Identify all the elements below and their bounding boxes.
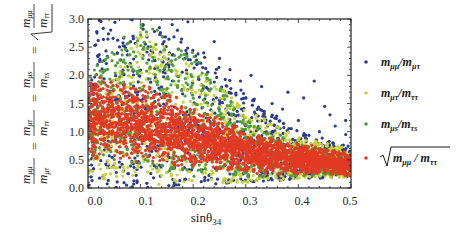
svg-text:mττ: mττ: [35, 120, 51, 136]
svg-text:mμμ / mττ: mμμ / mττ: [393, 151, 437, 167]
legend-marker-red: [364, 156, 368, 160]
y-tick-label: 1.5: [69, 97, 84, 111]
x-tick-label: 0.1: [139, 194, 154, 208]
y-tick-label: 0.5: [69, 153, 84, 167]
legend-item: mμμ / mττ: [364, 147, 450, 167]
svg-text:mττ: mττ: [35, 12, 51, 28]
y-title-term: mμτ mττ: [18, 110, 51, 136]
y-title-term: mμs mτs: [18, 62, 51, 88]
y-tick-label: 0.0: [69, 181, 84, 195]
x-tick-label: 0.5: [343, 194, 358, 208]
x-tick-label: 0.2: [191, 194, 206, 208]
svg-text:mμμ: mμμ: [18, 11, 34, 28]
svg-text:=: =: [27, 95, 42, 102]
legend-marker-blue: [364, 60, 368, 64]
y-tick-labels: 0.0 0.5 1.0 1.5 2.0 2.5 3.0: [69, 12, 84, 195]
svg-text:=: =: [27, 47, 42, 54]
svg-text:mμs: mμs: [18, 71, 34, 88]
x-tick-label: 0.3: [243, 194, 258, 208]
y-axis-title: mμμ mμτ = mμτ mττ = mμs mτs = mμμ mττ: [18, 4, 52, 184]
svg-text:mμμ: mμμ: [18, 167, 34, 184]
scatter-points: [87, 18, 353, 189]
y-title-term-sqrt: mμμ mττ: [18, 4, 52, 40]
svg-text:mμμ/mμτ: mμμ/mμτ: [381, 55, 420, 71]
y-tick-label: 2.5: [69, 40, 84, 54]
legend-marker-yellow: [364, 91, 368, 95]
x-tick-label: 0.0: [88, 194, 103, 208]
legend: mμμ/mμτ mμτ/mττ mμs/mτs mμμ / mττ: [364, 55, 450, 167]
svg-text:mμτ: mμτ: [35, 167, 51, 184]
svg-text:mτs: mτs: [35, 73, 51, 88]
legend-item: mμμ/mμτ: [364, 55, 420, 71]
x-tick-labels: 0.0 0.1 0.2 0.3 0.4 0.5: [88, 194, 358, 208]
scatter-figure: 0.0 0.5 1.0 1.5 2.0 2.5 3.0 0.0 0.1 0.2 …: [0, 0, 457, 235]
legend-marker-green: [364, 122, 368, 126]
legend-item: mμτ/mττ: [364, 86, 418, 102]
y-tick-label: 2.0: [69, 68, 84, 82]
x-tick-label: 0.4: [295, 194, 310, 208]
svg-text:mμτ: mμτ: [18, 119, 34, 136]
y-tick-label: 1.0: [69, 125, 84, 139]
legend-item: mμs/mτs: [364, 117, 417, 133]
x-axis-title: sinθ34: [191, 210, 222, 227]
svg-text:mμτ/mττ: mμτ/mττ: [381, 86, 419, 102]
svg-text:mμs/mτs: mμs/mτs: [381, 117, 417, 133]
y-title-term: mμμ mμτ: [18, 158, 51, 184]
svg-text:=: =: [27, 143, 42, 150]
y-tick-label: 3.0: [69, 12, 84, 26]
